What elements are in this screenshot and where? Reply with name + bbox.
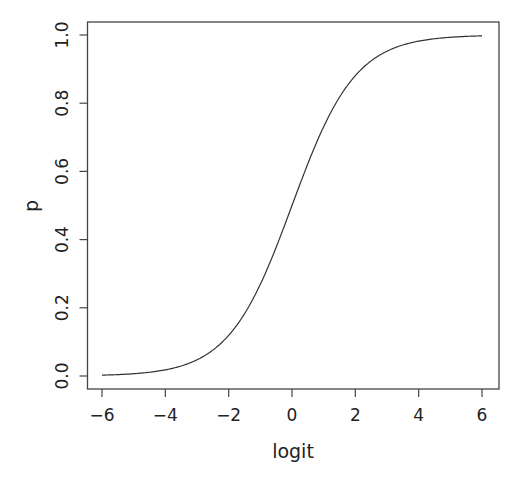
x-tick-label: −6 xyxy=(89,405,114,425)
y-tick-label: 0.2 xyxy=(52,294,72,321)
x-tick-label: −2 xyxy=(216,405,241,425)
x-axis-ticks: −6−4−20246 xyxy=(89,389,487,425)
y-tick-label: 0.8 xyxy=(52,90,72,117)
x-axis-title: logit xyxy=(272,440,314,462)
y-tick-label: 0.6 xyxy=(52,158,72,185)
y-axis-title: p xyxy=(20,200,42,212)
chart-canvas: −6−4−20246 0.00.20.40.60.81.0 logit p xyxy=(0,0,515,479)
x-tick-label: 2 xyxy=(350,405,361,425)
x-tick-label: −4 xyxy=(153,405,178,425)
x-tick-label: 4 xyxy=(413,405,424,425)
logistic-curve xyxy=(102,36,482,375)
y-axis-ticks: 0.00.20.40.60.81.0 xyxy=(52,21,88,389)
y-tick-label: 0.4 xyxy=(52,226,72,253)
x-tick-label: 6 xyxy=(477,405,488,425)
y-tick-label: 1.0 xyxy=(52,21,72,48)
y-tick-label: 0.0 xyxy=(52,362,72,389)
plot-box xyxy=(88,22,500,389)
x-tick-label: 0 xyxy=(287,405,298,425)
